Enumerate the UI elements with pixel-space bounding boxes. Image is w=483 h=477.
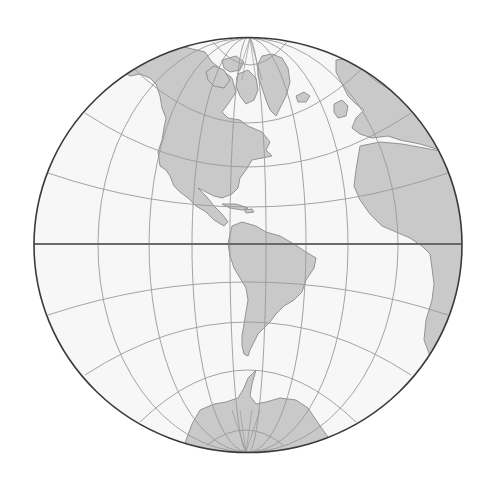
globe-map [0, 0, 483, 477]
hispaniola [244, 209, 254, 213]
